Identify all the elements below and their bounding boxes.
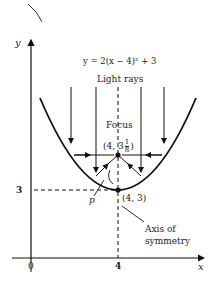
light-rays-label: Light rays (97, 75, 143, 84)
x-tick-0: 0 (28, 262, 34, 271)
focus-close: ) (130, 141, 134, 151)
x-tick-4: 4 (115, 262, 121, 271)
reflected-ray (128, 164, 141, 176)
p-label: p (89, 196, 95, 205)
axis-label-line1: Axis of (145, 225, 176, 234)
reflected-ray (96, 164, 108, 176)
focus-frac-den: 8 (125, 147, 129, 154)
angle-arc (109, 170, 113, 184)
axis-label-line2: symmetry (145, 237, 190, 246)
equation-label: y = 2(x − 4)² + 3 (83, 57, 156, 66)
focus-coords: (4, 318) (103, 139, 134, 154)
axis-pointer (122, 206, 144, 222)
stray-mark (28, 4, 42, 22)
focus-label: Focus (106, 121, 133, 130)
y-axis-label: y (15, 38, 21, 48)
y-tick-3: 3 (16, 186, 22, 195)
x-axis-label: x (198, 262, 204, 272)
focus-coords-text: (4, 3 (103, 141, 124, 151)
vertex-point (115, 187, 120, 192)
vertex-label: (4, 3) (122, 194, 146, 203)
